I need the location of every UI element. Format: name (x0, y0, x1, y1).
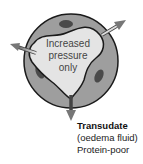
center-label-line1: Increased (46, 38, 90, 49)
protein-poor-label: Protein-poor (77, 144, 129, 156)
arrow-right-up-icon (102, 20, 126, 35)
cell-nucleus-icon (59, 20, 73, 28)
oedema-fluid-label: (oedema fluid) (77, 132, 138, 144)
center-label-line2: pressure (49, 50, 88, 61)
center-label-line3: only (59, 62, 77, 73)
transudate-label: Transudate (77, 120, 128, 132)
